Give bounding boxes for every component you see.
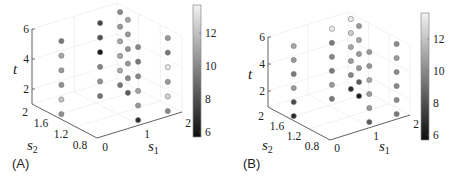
s2-axis-label-a: s2 xyxy=(27,137,38,155)
data-point xyxy=(291,43,296,48)
data-point xyxy=(394,55,399,60)
s2-tick-0.8-a: 0.8 xyxy=(73,139,88,151)
data-point xyxy=(165,108,170,113)
data-point xyxy=(136,59,141,64)
data-point xyxy=(356,37,361,42)
colorbar-tick-12-b: 12 xyxy=(433,33,445,45)
s1-tick-2-b: 2 xyxy=(413,118,419,130)
data-point xyxy=(98,35,103,40)
data-point xyxy=(291,85,296,90)
colorbar-tick-6-a: 6 xyxy=(205,126,211,138)
s2-tick-2-a: 2 xyxy=(22,106,28,118)
data-point xyxy=(59,112,64,117)
data-point xyxy=(136,118,141,123)
s2-tick-1.6-b: 1.6 xyxy=(270,120,285,132)
s2-tick-2-b: 2 xyxy=(258,110,264,122)
data-point xyxy=(165,94,170,99)
data-point xyxy=(367,91,372,96)
t-axis-label-b: t xyxy=(248,66,253,82)
panel-b: 6 4 2 t 2 1.6 1.2 0.8 s2 0 1 2 s1 12 10 … xyxy=(243,12,445,171)
data-point xyxy=(136,74,141,79)
data-point xyxy=(329,54,334,59)
colorbar-tick-10-b: 10 xyxy=(433,65,445,77)
data-point xyxy=(394,69,399,74)
data-point xyxy=(291,71,296,76)
data-point xyxy=(329,40,334,45)
data-point xyxy=(367,63,372,68)
data-point xyxy=(291,57,296,62)
t-tick-4-a: 4 xyxy=(23,53,29,65)
colorbar-b: 12 10 8 6 xyxy=(421,13,445,141)
data-point xyxy=(394,83,399,88)
colorbar-gradient-b xyxy=(421,13,429,140)
data-point xyxy=(98,50,103,55)
s2-tick-1.6-a: 1.6 xyxy=(34,117,49,129)
colorbar-a: 12 10 8 6 xyxy=(193,5,217,138)
data-point xyxy=(165,79,170,84)
data-point xyxy=(291,113,296,118)
data-point xyxy=(59,39,64,44)
data-point xyxy=(348,16,353,21)
colorbar-tick-6-b: 6 xyxy=(433,129,439,141)
panel-label-a: (A) xyxy=(12,156,29,171)
colorbar-tick-8-b: 8 xyxy=(433,97,439,109)
s1-tick-2-a: 2 xyxy=(185,117,191,129)
data-point xyxy=(356,79,361,84)
data-point xyxy=(118,24,123,29)
data-point xyxy=(394,97,399,102)
data-point xyxy=(356,93,361,98)
data-point xyxy=(118,68,123,73)
s2-tick-0.8-b: 0.8 xyxy=(305,140,320,152)
panel-a-grid xyxy=(32,3,182,127)
data-point xyxy=(329,96,334,101)
t-tick-6-b: 6 xyxy=(259,31,265,43)
data-point xyxy=(98,64,103,69)
data-point xyxy=(59,97,64,102)
data-point xyxy=(98,93,103,98)
data-point xyxy=(59,68,64,73)
s2-tick-1.2-b: 1.2 xyxy=(287,130,302,142)
data-point xyxy=(348,72,353,77)
data-point xyxy=(348,44,353,49)
panel-b-grid xyxy=(268,12,410,129)
colorbar-tick-10-a: 10 xyxy=(205,60,217,72)
data-point xyxy=(125,76,130,81)
data-point xyxy=(356,23,361,28)
data-point xyxy=(165,35,170,40)
data-point xyxy=(348,30,353,35)
panel-label-b: (B) xyxy=(243,156,260,171)
colorbar-tick-12-a: 12 xyxy=(205,27,217,39)
data-point xyxy=(125,61,130,66)
data-point xyxy=(367,77,372,82)
s2-tick-1.2-a: 1.2 xyxy=(54,128,69,140)
data-point xyxy=(394,41,399,46)
data-point xyxy=(125,32,130,37)
data-point xyxy=(136,103,141,108)
data-point xyxy=(348,58,353,63)
data-point xyxy=(118,53,123,58)
data-point xyxy=(356,65,361,70)
s1-tick-0-a: 0 xyxy=(102,141,108,153)
s1-axis-a xyxy=(97,112,182,138)
data-point xyxy=(291,99,296,104)
data-point xyxy=(125,90,130,95)
t-tick-6-a: 6 xyxy=(23,23,29,35)
data-point xyxy=(394,111,399,116)
s1-axis-label-a: s1 xyxy=(148,138,159,156)
data-point xyxy=(356,51,361,56)
data-point xyxy=(125,46,130,51)
data-point xyxy=(125,17,130,22)
data-point xyxy=(165,65,170,70)
t-tick-2-b: 2 xyxy=(259,85,265,97)
data-point xyxy=(367,119,372,124)
figure: 6 4 2 t 2 1.6 1.2 0.8 s2 0 1 2 s1 12 10 … xyxy=(0,0,454,179)
t-axis-label-a: t xyxy=(13,61,18,77)
data-point xyxy=(329,82,334,87)
data-point xyxy=(98,20,103,25)
s2-axis-label-b: s2 xyxy=(262,137,273,155)
data-point xyxy=(118,83,123,88)
data-point xyxy=(367,49,372,54)
data-point xyxy=(348,86,353,91)
t-tick-4-b: 4 xyxy=(259,58,265,70)
data-point xyxy=(136,88,141,93)
